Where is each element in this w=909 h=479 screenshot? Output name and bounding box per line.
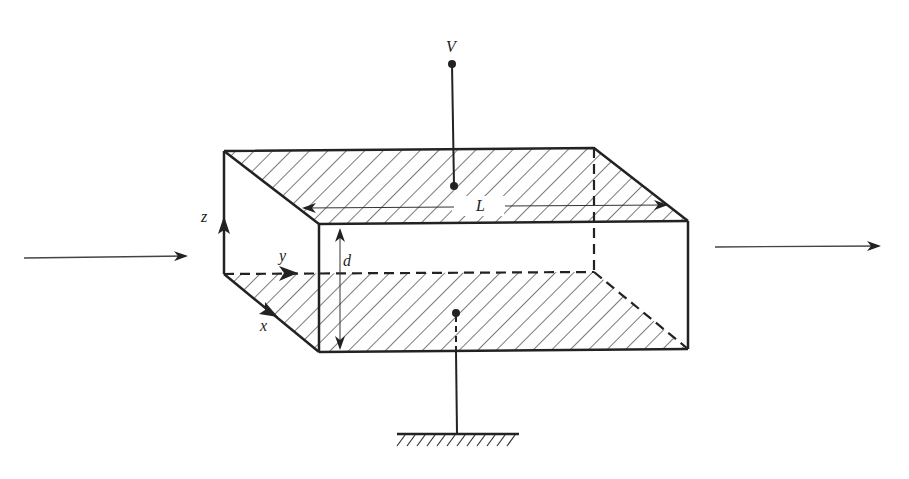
axis-x-label: x [259, 317, 267, 334]
ground-icon [397, 434, 519, 446]
axis-z: z [200, 208, 230, 234]
axis-z-label: z [200, 208, 208, 225]
length-label: L [475, 197, 485, 214]
outgoing-arrow [715, 246, 879, 247]
separation-label: d [343, 252, 352, 269]
voltage-label: V [446, 38, 458, 55]
waveguide-diagram: L d z y x V [0, 0, 909, 479]
axis-y-label: y [277, 247, 287, 265]
incoming-arrow [24, 256, 186, 258]
